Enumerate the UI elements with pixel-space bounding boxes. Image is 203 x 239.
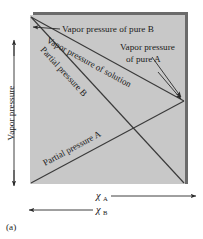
x-axis-label-chi-a-subscript: A <box>103 195 108 202</box>
label-vapor-pressure-pure-b: Vapor pressure of pure B <box>62 24 154 34</box>
x-axis-label-chi-a: χ <box>95 190 101 201</box>
y-axis-label: Vapor pressure <box>6 86 16 141</box>
x-axis-label-chi-b: χ <box>95 204 101 215</box>
figure-caption: (a) <box>6 222 16 232</box>
label-vapor-pressure-pure-a-line2: of pure A <box>126 54 161 64</box>
label-vapor-pressure-pure-a-line1: Vapor pressure <box>120 42 175 52</box>
raoult-law-diagram: Vapor pressure of pure B Vapor pressure … <box>0 0 203 239</box>
x-axis-label-chi-b-subscript: B <box>103 209 108 216</box>
figure-container: Vapor pressure of pure B Vapor pressure … <box>0 0 203 239</box>
